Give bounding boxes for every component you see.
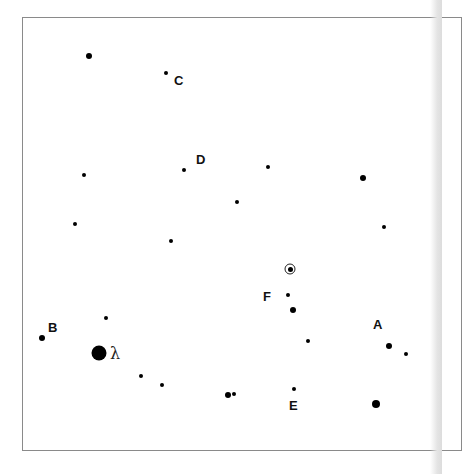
label-f: F [263, 290, 271, 303]
star-dot-icon [290, 307, 296, 313]
star-dot-icon [39, 335, 45, 341]
star-dot-icon [292, 387, 296, 391]
sun-symbol-icon [285, 264, 296, 275]
star-dot-icon [92, 346, 107, 361]
star-dot-icon [225, 392, 231, 398]
star-dot-icon [73, 222, 77, 226]
star-dot-icon [104, 316, 108, 320]
star-dot-icon [404, 352, 408, 356]
star-dot-icon [86, 53, 92, 59]
star-dot-icon [169, 239, 173, 243]
star-dot-icon [382, 225, 386, 229]
star-dot-icon [235, 200, 239, 204]
star-dot-icon [266, 165, 270, 169]
label-d: D [196, 153, 205, 166]
star-dot-icon [160, 383, 164, 387]
star-dot-icon [82, 173, 86, 177]
star-dot-icon [232, 392, 236, 396]
label-c: C [174, 74, 183, 87]
star-dot-icon [372, 400, 380, 408]
page-edge-shadow [430, 0, 442, 474]
star-dot-icon [386, 343, 392, 349]
star-dot-icon [286, 293, 290, 297]
label-b: B [48, 321, 57, 334]
star-dot-icon [306, 339, 310, 343]
label-lambda: λ [110, 346, 120, 362]
label-a: A [373, 318, 382, 331]
star-chart-frame [22, 17, 462, 451]
star-dot-icon [164, 71, 168, 75]
star-dot-icon [360, 175, 366, 181]
star-dot-icon [139, 374, 143, 378]
label-e: E [289, 399, 298, 412]
star-dot-icon [182, 168, 186, 172]
